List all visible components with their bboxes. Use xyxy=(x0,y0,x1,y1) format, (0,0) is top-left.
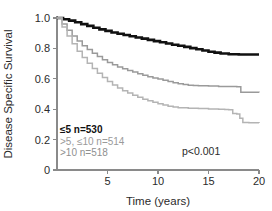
chart-legend: ≤5 n=530>5, ≤10 n=514>10 n=518 xyxy=(60,124,125,158)
x-tick-label: 5 xyxy=(104,175,110,187)
kaplan-meier-plot: 00.20.40.60.81.0 5101520 Time (years) Di… xyxy=(0,0,272,211)
y-tick-label: 0.6 xyxy=(35,73,50,85)
x-axis-title: Time (years) xyxy=(126,195,190,207)
x-axis-ticks: 5101520 xyxy=(104,170,265,187)
x-tick-label: 20 xyxy=(253,175,265,187)
y-tick-label: 0.8 xyxy=(35,42,50,54)
x-tick-label: 15 xyxy=(202,175,214,187)
legend-item-2: >5, ≤10 n=514 xyxy=(60,136,125,147)
y-tick-label: 0.4 xyxy=(35,103,50,115)
legend-item-1: ≤5 n=530 xyxy=(60,124,103,135)
legend-item-3: >10 n=518 xyxy=(60,147,108,158)
y-axis-ticks: 00.20.40.60.81.0 xyxy=(35,12,57,176)
pvalue-annotation: p<0.001 xyxy=(182,145,220,157)
x-tick-label: 10 xyxy=(152,175,164,187)
y-axis-title: Disease Specific Survival xyxy=(2,29,14,158)
y-tick-label: 1.0 xyxy=(35,12,50,24)
survival-chart-figure: 00.20.40.60.81.0 5101520 Time (years) Di… xyxy=(0,0,272,211)
survival-curves xyxy=(57,18,259,123)
y-tick-label: 0.2 xyxy=(35,134,50,146)
y-tick-label: 0 xyxy=(44,164,50,176)
survival-curve-3 xyxy=(57,18,259,123)
